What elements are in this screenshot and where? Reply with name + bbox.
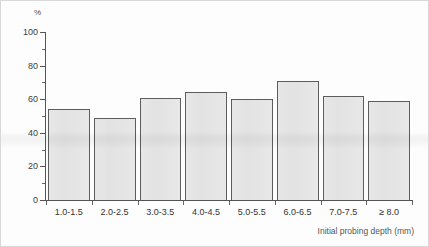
bar-fill: [49, 110, 89, 200]
y-tick-minor: [42, 82, 45, 83]
bar-fill: [369, 102, 409, 200]
x-tick: [321, 201, 322, 205]
y-tick-minor: [42, 49, 45, 50]
bar: [231, 99, 273, 200]
y-tick-major: [40, 32, 45, 33]
y-tick-major: [40, 66, 45, 67]
bar: [368, 101, 410, 200]
y-tick-minor: [42, 116, 45, 117]
y-tick-major: [40, 99, 45, 100]
bar-fill: [232, 100, 272, 200]
x-tick-label: 5.0-5.5: [229, 206, 275, 218]
x-tick: [366, 201, 367, 205]
y-tick-label: 20: [2, 162, 38, 171]
y-tick-label: 80: [2, 62, 38, 71]
x-tick: [412, 201, 413, 205]
bar: [48, 109, 90, 200]
x-tick: [275, 201, 276, 205]
x-tick: [46, 201, 47, 205]
y-tick-major: [40, 166, 45, 167]
x-tick: [229, 201, 230, 205]
y-axis-line: [45, 32, 46, 201]
y-axis-unit-label: %: [34, 8, 41, 17]
y-tick-label: 60: [2, 95, 38, 104]
x-tick: [183, 201, 184, 205]
x-tick: [138, 201, 139, 205]
bar: [277, 81, 319, 200]
bar: [323, 96, 365, 200]
bar: [94, 118, 136, 200]
y-tick-label: 0: [2, 196, 38, 205]
x-tick-label: 2.0-2.5: [92, 206, 138, 218]
y-tick-label: 40: [2, 129, 38, 138]
bar-fill: [141, 99, 181, 200]
x-axis-title: Initial probing depth (mm): [318, 226, 414, 236]
x-tick: [92, 201, 93, 205]
x-tick-label: 3.0-3.5: [138, 206, 184, 218]
y-tick-label: 100: [2, 28, 38, 37]
bar: [140, 98, 182, 200]
bar-fill: [324, 97, 364, 200]
x-tick-label: 4.0-4.5: [183, 206, 229, 218]
x-tick-label: 6.0-6.5: [275, 206, 321, 218]
bar-fill: [278, 82, 318, 200]
y-tick-major: [40, 133, 45, 134]
bar: [185, 92, 227, 200]
bar-fill: [95, 119, 135, 200]
y-tick-minor: [42, 183, 45, 184]
x-tick-label: 7.0-7.5: [321, 206, 367, 218]
x-tick-label: 1.0-1.5: [46, 206, 92, 218]
bar-chart-figure: % 020406080100 1.0-1.52.0-2.53.0-3.54.0-…: [0, 0, 429, 247]
bar-fill: [186, 93, 226, 200]
y-tick-minor: [42, 150, 45, 151]
x-tick-label: ≥ 8.0: [366, 206, 412, 218]
